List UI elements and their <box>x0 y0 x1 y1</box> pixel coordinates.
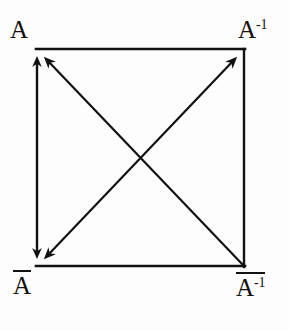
corner-label-bottom-right-base: A <box>236 274 254 301</box>
corner-label-top-right-base: A <box>238 16 256 43</box>
corner-label-bottom-right-superscript: -1 <box>254 275 265 290</box>
corner-label-bottom-left: A <box>13 270 31 298</box>
corner-label-top-left: A <box>10 17 28 42</box>
corner-label-top-right-superscript: -1 <box>256 17 267 32</box>
corner-label-bottom-right: A-1 <box>236 272 265 300</box>
corner-label-bottom-left-overline: A <box>13 270 31 298</box>
corner-label-bottom-left-base: A <box>13 272 31 299</box>
diagonal-br-tl-arrow <box>48 61 243 265</box>
figure-root: A A-1 A A-1 <box>0 0 289 331</box>
corner-label-bottom-right-overline: A-1 <box>236 272 265 300</box>
corner-label-top-right: A-1 <box>238 17 267 42</box>
corner-label-top-left-base: A <box>10 16 28 43</box>
